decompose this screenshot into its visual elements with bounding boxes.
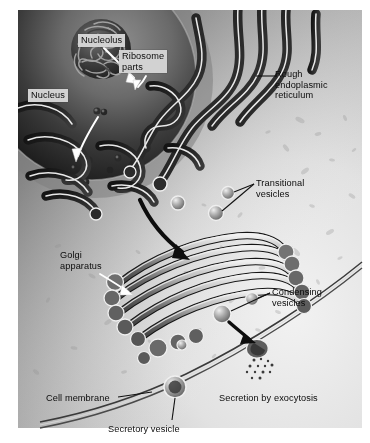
- label-golgi-apparatus: Golgi apparatus: [60, 250, 102, 271]
- secreted-particle: [271, 364, 274, 367]
- secreted-particle: [264, 365, 266, 367]
- secreted-particle: [262, 371, 265, 374]
- transitional-vesicle-1: [222, 187, 235, 200]
- transitional-vesicle-3: [171, 196, 185, 210]
- diagram-canvas: [0, 0, 370, 443]
- secreted-particle: [267, 360, 269, 362]
- label-nucleus: Nucleus: [28, 89, 68, 102]
- transitional-vesicle-2: [209, 206, 224, 221]
- label-transitional-vesicles: Transitional vesicles: [256, 178, 304, 199]
- label-condensing-vesicles: Condensing vesicles: [272, 287, 322, 308]
- secretory-vesicle-lumen: [169, 381, 182, 394]
- secreted-particle: [269, 371, 271, 373]
- secreted-particle: [251, 377, 253, 379]
- label-rough-endoplasmic-reticulum: Rough endoplasmic reticulum: [275, 69, 328, 101]
- secreted-particle: [253, 359, 256, 362]
- condensing-vesicle-3: [177, 340, 187, 350]
- secreted-particle: [246, 371, 248, 373]
- secreted-particle: [260, 358, 262, 360]
- label-nucleolus: Nucleolus: [78, 34, 125, 47]
- label-secretory-vesicle: Secretory vesicle: [108, 424, 180, 435]
- label-ribosome-parts: Ribosome parts: [119, 50, 167, 73]
- condensing-vesicle-2: [213, 305, 231, 323]
- cell-diagram-figure: Nucleolus Ribosome parts Nucleus Rough e…: [0, 0, 370, 443]
- label-secretion-by-exocytosis: Secretion by exocytosis: [219, 393, 318, 404]
- secreted-particle: [259, 377, 262, 380]
- label-cell-membrane: Cell membrane: [46, 393, 110, 404]
- secreted-particle: [254, 371, 256, 373]
- secreted-particle: [257, 365, 259, 367]
- secreted-particle: [249, 365, 252, 368]
